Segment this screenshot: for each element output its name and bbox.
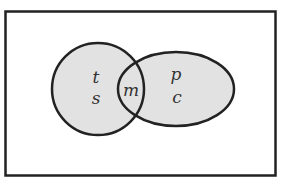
label-c: c	[172, 87, 182, 107]
label-p: p	[171, 64, 182, 84]
label-s: s	[92, 88, 101, 108]
label-m: m	[123, 80, 139, 100]
label-t: t	[93, 67, 100, 87]
venn-diagram: t s m p c	[0, 0, 291, 183]
